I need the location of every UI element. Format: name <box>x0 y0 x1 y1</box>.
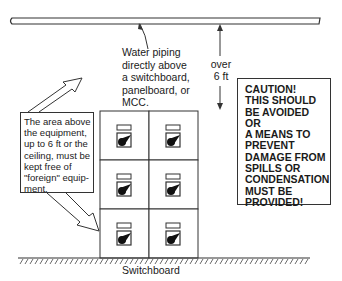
floor-hatch <box>35 259 38 264</box>
floor-hatch <box>190 259 193 264</box>
hollow-arrow-down-icon <box>47 193 99 231</box>
floor-hatch <box>85 259 88 264</box>
floor-hatch <box>195 259 198 264</box>
floor-hatch <box>180 259 183 264</box>
breaker-section <box>100 160 149 209</box>
breaker-nameplate <box>166 174 180 179</box>
breaker-section <box>100 111 149 160</box>
floor-hatch <box>215 259 218 264</box>
floor-hatch <box>50 259 53 264</box>
water-piping-label: Water piping directly above a switchboar… <box>122 46 190 109</box>
hollow-arrow-up-icon <box>28 78 82 112</box>
floor-hatch <box>220 259 223 264</box>
floor-hatch <box>260 259 263 264</box>
floor-hatch <box>45 259 48 264</box>
breaker-section <box>149 111 198 160</box>
floor-hatch <box>225 259 228 264</box>
floor-hatch <box>235 259 238 264</box>
floor-hatch <box>280 259 283 264</box>
floor-hatch <box>295 259 298 264</box>
floor-hatch <box>300 259 303 264</box>
floor-hatch <box>305 259 308 264</box>
floor-hatch <box>65 259 68 264</box>
floor-hatch <box>250 259 253 264</box>
floor-hatch <box>245 259 248 264</box>
breaker-section <box>100 209 149 258</box>
floor-hatch <box>105 259 108 264</box>
clearance-label: over 6 ft <box>207 58 235 82</box>
caution-note-box: CAUTION! THIS SHOULD BE AVOIDED OR A MEA… <box>237 78 331 205</box>
floor-hatch <box>240 259 243 264</box>
floor-hatch <box>55 259 58 264</box>
floor-hatch <box>265 259 268 264</box>
floor-hatch <box>185 259 188 264</box>
floor-hatch <box>290 259 293 264</box>
floor-hatch <box>285 259 288 264</box>
floor-hatch <box>95 259 98 264</box>
floor-hatch <box>80 259 83 264</box>
floor-hatch <box>25 259 28 264</box>
floor-hatch <box>230 259 233 264</box>
switchboard-label: Switchboard <box>122 264 180 276</box>
floor-hatch <box>75 259 78 264</box>
floor-hatch <box>275 259 278 264</box>
floor-hatch <box>20 259 23 264</box>
floor-hatch <box>270 259 273 264</box>
breaker-section <box>149 209 198 258</box>
floor-hatch <box>60 259 63 264</box>
floor-hatch <box>90 259 93 264</box>
floor-hatch <box>200 259 203 264</box>
floor-hatch <box>30 259 33 264</box>
water-pipe <box>11 18 321 24</box>
switchboard <box>100 111 198 258</box>
floor-hatch <box>40 259 43 264</box>
floor-hatch <box>210 259 213 264</box>
breaker-nameplate <box>166 223 180 228</box>
breaker-nameplate <box>166 125 180 130</box>
floor-hatch <box>255 259 258 264</box>
floor-hatch <box>205 259 208 264</box>
breaker-nameplate <box>117 223 131 228</box>
floor-hatch <box>70 259 73 264</box>
breaker-section <box>149 160 198 209</box>
floor-hatch <box>100 259 103 264</box>
floor-hatch <box>115 259 118 264</box>
area-note-box: The area above the equipment, up to 6 ft… <box>20 112 94 193</box>
breaker-nameplate <box>117 125 131 130</box>
floor-hatch <box>110 259 113 264</box>
breaker-nameplate <box>117 174 131 179</box>
